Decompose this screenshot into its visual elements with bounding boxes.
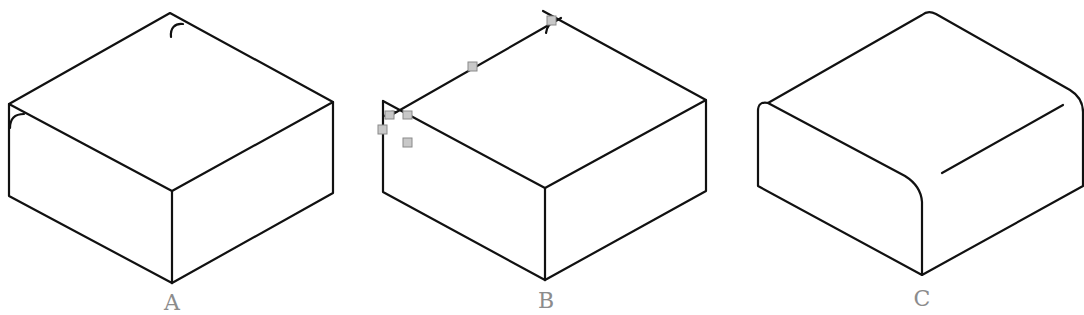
selection-handle[interactable] bbox=[378, 125, 387, 134]
selection-handle[interactable] bbox=[403, 138, 412, 147]
box-a-top-face bbox=[9, 13, 333, 191]
box-c-front-rounded-edge bbox=[768, 103, 922, 275]
figure-canvas bbox=[0, 0, 1084, 315]
box-a bbox=[9, 13, 333, 283]
box-a-left-arc-icon bbox=[10, 114, 24, 128]
box-a-right-face bbox=[172, 102, 333, 283]
box-c-inner-line bbox=[942, 105, 1063, 173]
panel-label-c: C bbox=[914, 288, 931, 310]
panel-label-b: B bbox=[538, 290, 554, 312]
selection-handle[interactable] bbox=[403, 111, 412, 119]
selection-handle[interactable] bbox=[385, 111, 394, 119]
box-b-top-right-edge bbox=[543, 11, 706, 188]
selection-handle[interactable] bbox=[468, 62, 477, 71]
box-b-right-face bbox=[545, 100, 706, 280]
box-a-top-arc-icon bbox=[171, 24, 183, 37]
box-c bbox=[758, 12, 1083, 275]
selection-handle[interactable] bbox=[547, 16, 556, 25]
box-b bbox=[378, 11, 706, 280]
box-b-left-face bbox=[383, 101, 545, 280]
panel-label-a: A bbox=[164, 292, 180, 314]
box-c-outline bbox=[758, 12, 1083, 275]
box-a-left-face bbox=[9, 104, 172, 283]
